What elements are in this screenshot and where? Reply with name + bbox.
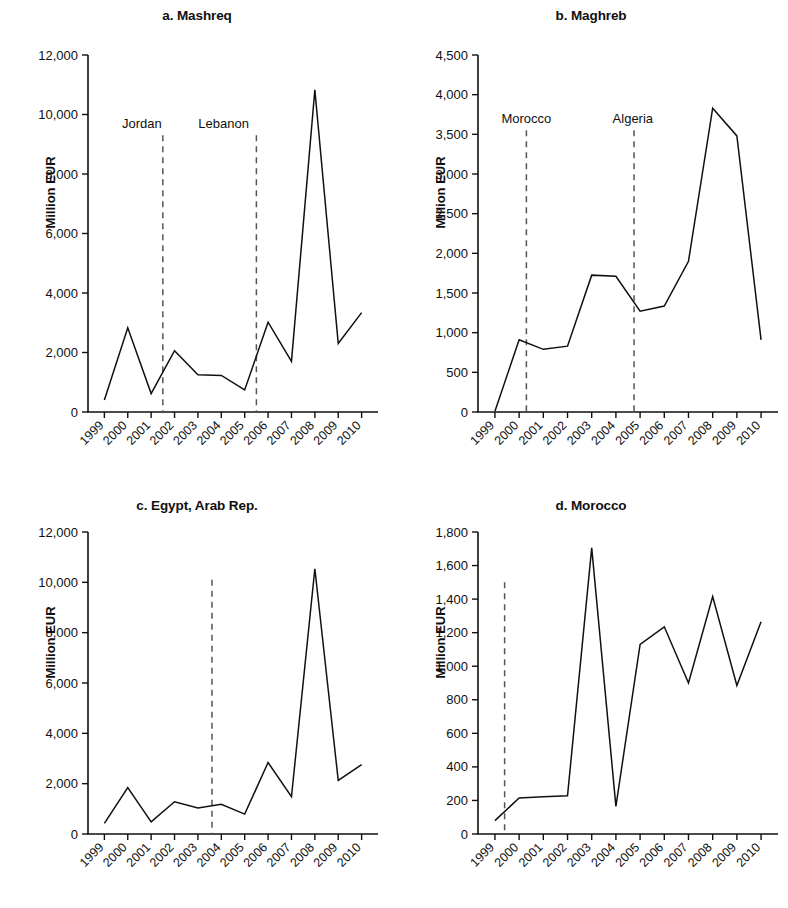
x-axis-tick-label: 2004 — [194, 418, 224, 448]
y-axis-tick-label: 3,500 — [435, 127, 468, 142]
y-axis-tick-label: 2,000 — [45, 776, 78, 791]
x-axis-tick-label: 1999 — [77, 418, 107, 448]
x-axis-tick-label: 2008 — [287, 840, 317, 870]
figure-grid: a. Mashreq Million EUR 02,0004,0006,0008… — [0, 0, 788, 908]
x-axis-tick-label: 2006 — [637, 840, 667, 870]
y-axis-tick-label: 200 — [446, 793, 468, 808]
y-axis-tick-label: 6,000 — [45, 676, 78, 691]
x-axis-tick-label: 2007 — [661, 418, 691, 448]
y-axis-tick-label: 0 — [71, 405, 78, 420]
panel-b-maghreb: b. Maghreb Million EUR 05001,0001,5002,0… — [394, 0, 788, 490]
y-axis-tick-label: 1,600 — [435, 558, 468, 573]
panel-annotation-label: Morocco — [501, 111, 551, 126]
x-axis-tick-label: 2009 — [311, 418, 341, 448]
y-axis-tick-label: 10,000 — [38, 107, 78, 122]
x-axis-tick-label: 2000 — [492, 418, 522, 448]
panel-d-morocco: d. Morocco Million EUR 02004006008001,00… — [394, 490, 788, 908]
y-axis-tick-label: 1,000 — [435, 325, 468, 340]
panel-d-plot: 02004006008001,0001,2001,4001,6001,80019… — [394, 490, 788, 908]
x-axis-tick-label: 2009 — [311, 840, 341, 870]
y-axis-tick-label: 4,000 — [45, 286, 78, 301]
x-axis-tick-label: 2007 — [661, 840, 691, 870]
x-axis-tick-label: 1999 — [467, 418, 497, 448]
x-axis-tick-label: 2005 — [613, 418, 643, 448]
y-axis-tick-label: 600 — [446, 726, 468, 741]
x-axis-tick-label: 1999 — [77, 840, 107, 870]
y-axis-tick-label: 12,000 — [38, 48, 78, 63]
panel-c-plot: 02,0004,0006,0008,00010,00012,0001999200… — [0, 490, 394, 908]
y-axis-tick-label: 1,500 — [435, 286, 468, 301]
x-axis-tick-label: 2000 — [492, 840, 522, 870]
x-axis-tick-label: 1999 — [467, 840, 497, 870]
data-series-line — [495, 548, 761, 821]
y-axis-tick-label: 2,000 — [435, 246, 468, 261]
x-axis-tick-label: 2002 — [540, 418, 570, 448]
panel-b-plot: 05001,0001,5002,0002,5003,0003,5004,0004… — [394, 0, 788, 490]
y-axis-tick-label: 800 — [446, 692, 468, 707]
x-axis-tick-label: 2005 — [217, 418, 247, 448]
x-axis-tick-label: 2004 — [588, 840, 618, 870]
x-axis-tick-label: 2003 — [170, 418, 200, 448]
y-axis-tick-label: 2,000 — [45, 345, 78, 360]
x-axis-tick-label: 2004 — [588, 418, 618, 448]
y-axis-tick-label: 0 — [461, 405, 468, 420]
x-axis-tick-label: 2000 — [100, 840, 130, 870]
x-axis-tick-label: 2008 — [685, 840, 715, 870]
x-axis-tick-label: 2001 — [516, 418, 546, 448]
y-axis-tick-label: 1,400 — [435, 592, 468, 607]
x-axis-tick-label: 2010 — [334, 840, 364, 870]
x-axis-tick-label: 2006 — [241, 840, 271, 870]
y-axis-tick-label: 4,000 — [435, 87, 468, 102]
data-series-line — [104, 569, 361, 824]
panel-c-egypt: c. Egypt, Arab Rep. Million EUR 02,0004,… — [0, 490, 394, 908]
x-axis-tick-label: 2002 — [147, 418, 177, 448]
y-axis-tick-label: 12,000 — [38, 525, 78, 540]
data-series-line — [495, 108, 761, 411]
x-axis-tick-label: 2001 — [124, 418, 154, 448]
x-axis-tick-label: 2001 — [124, 840, 154, 870]
x-axis-tick-label: 2010 — [734, 418, 764, 448]
panel-annotation-label: Lebanon — [198, 116, 249, 131]
y-axis-tick-label: 6,000 — [45, 226, 78, 241]
y-axis-tick-label: 4,500 — [435, 48, 468, 63]
y-axis-tick-label: 1,200 — [435, 625, 468, 640]
data-series-line — [104, 90, 361, 400]
x-axis-tick-label: 2007 — [264, 418, 294, 448]
x-axis-tick-label: 2009 — [709, 418, 739, 448]
panel-annotation-label: Algeria — [613, 111, 654, 126]
y-axis-tick-label: 1,800 — [435, 525, 468, 540]
y-axis-tick-label: 8,000 — [45, 167, 78, 182]
y-axis-tick-label: 3,000 — [435, 167, 468, 182]
x-axis-tick-label: 2006 — [241, 418, 271, 448]
x-axis-tick-label: 2003 — [170, 840, 200, 870]
y-axis-tick-label: 10,000 — [38, 575, 78, 590]
x-axis-tick-label: 2004 — [194, 840, 224, 870]
x-axis-tick-label: 2002 — [147, 840, 177, 870]
y-axis-tick-label: 4,000 — [45, 726, 78, 741]
y-axis-tick-label: 400 — [446, 759, 468, 774]
panel-a-plot: 02,0004,0006,0008,00010,00012,0001999200… — [0, 0, 394, 490]
y-axis-tick-label: 1,000 — [435, 659, 468, 674]
x-axis-tick-label: 2003 — [564, 840, 594, 870]
panel-annotation-label: Jordan — [122, 116, 162, 131]
x-axis-tick-label: 2007 — [264, 840, 294, 870]
x-axis-tick-label: 2002 — [540, 840, 570, 870]
x-axis-tick-label: 2010 — [734, 840, 764, 870]
y-axis-tick-label: 500 — [446, 365, 468, 380]
x-axis-tick-label: 2005 — [217, 840, 247, 870]
x-axis-tick-label: 2006 — [637, 418, 667, 448]
x-axis-tick-label: 2008 — [287, 418, 317, 448]
x-axis-tick-label: 2000 — [100, 418, 130, 448]
x-axis-tick-label: 2008 — [685, 418, 715, 448]
x-axis-tick-label: 2005 — [613, 840, 643, 870]
y-axis-tick-label: 0 — [461, 827, 468, 842]
x-axis-tick-label: 2001 — [516, 840, 546, 870]
y-axis-tick-label: 8,000 — [45, 625, 78, 640]
y-axis-tick-label: 0 — [71, 827, 78, 842]
y-axis-tick-label: 2,500 — [435, 206, 468, 221]
x-axis-tick-label: 2009 — [709, 840, 739, 870]
panel-a-mashreq: a. Mashreq Million EUR 02,0004,0006,0008… — [0, 0, 394, 490]
x-axis-tick-label: 2010 — [334, 418, 364, 448]
x-axis-tick-label: 2003 — [564, 418, 594, 448]
